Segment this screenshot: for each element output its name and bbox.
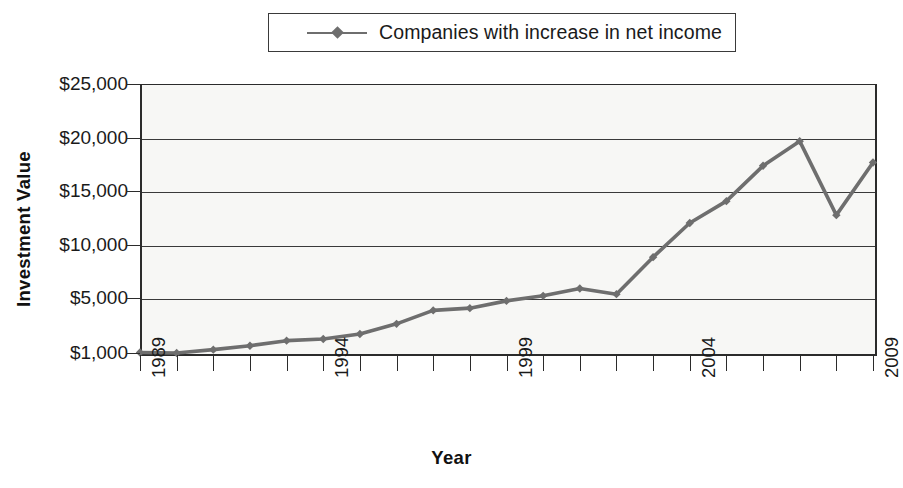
x-tick-mark-2007 bbox=[800, 355, 801, 371]
y-tick-mark-5000 bbox=[126, 298, 140, 299]
x-tick-label-1994: 1994 bbox=[331, 337, 353, 378]
data-point-1993 bbox=[282, 336, 290, 344]
data-point-1998 bbox=[466, 304, 474, 312]
x-tick-mark-1991 bbox=[213, 355, 214, 371]
x-tick-mark-1997 bbox=[433, 355, 434, 371]
x-axis-title: Year bbox=[0, 447, 903, 469]
y-tick-label-25000: $25,000 bbox=[8, 73, 128, 95]
x-tick-label-2004: 2004 bbox=[698, 337, 720, 378]
chart-legend: Companies with increase in net income bbox=[268, 13, 736, 52]
x-tick-label-1999: 1999 bbox=[515, 337, 537, 378]
x-tick-mark-2009 bbox=[873, 355, 874, 371]
y-tick-mark-10000 bbox=[126, 245, 140, 246]
x-tick-label-1989: 1989 bbox=[148, 337, 170, 378]
y-tick-mark-20000 bbox=[126, 138, 140, 139]
data-point-1994 bbox=[319, 335, 327, 343]
x-tick-mark-1998 bbox=[470, 355, 471, 371]
data-series-layer bbox=[140, 84, 873, 353]
x-tick-mark-1994 bbox=[323, 355, 324, 371]
data-point-2001 bbox=[576, 284, 584, 292]
legend-label-series-1: Companies with increase in net income bbox=[379, 21, 722, 44]
data-point-2000 bbox=[539, 292, 547, 300]
chart-figure: Companies with increase in net income $2… bbox=[0, 0, 903, 488]
y-tick-mark-1000 bbox=[126, 353, 140, 354]
x-tick-mark-2005 bbox=[726, 355, 727, 371]
data-point-1999 bbox=[502, 297, 510, 305]
data-point-1995 bbox=[356, 330, 364, 338]
data-point-1991 bbox=[209, 345, 217, 353]
x-tick-mark-2002 bbox=[616, 355, 617, 371]
series-markers bbox=[136, 137, 877, 357]
x-tick-mark-2008 bbox=[836, 355, 837, 371]
series-line-companies-with-increase-in-net-income bbox=[140, 141, 873, 353]
x-tick-mark-2004 bbox=[690, 355, 691, 371]
x-tick-mark-2001 bbox=[580, 355, 581, 371]
x-tick-mark-1995 bbox=[360, 355, 361, 371]
y-tick-mark-25000 bbox=[126, 84, 140, 85]
data-point-1992 bbox=[246, 342, 254, 350]
legend-line-sample bbox=[307, 26, 367, 40]
x-tick-mark-2006 bbox=[763, 355, 764, 371]
x-tick-mark-2003 bbox=[653, 355, 654, 371]
x-tick-mark-1990 bbox=[177, 355, 178, 371]
x-tick-mark-1999 bbox=[507, 355, 508, 371]
x-tick-mark-1996 bbox=[397, 355, 398, 371]
y-tick-mark-15000 bbox=[126, 191, 140, 192]
x-tick-mark-1992 bbox=[250, 355, 251, 371]
x-tick-label-2009: 2009 bbox=[881, 337, 903, 378]
y-axis-title: Investment Value bbox=[13, 109, 35, 349]
x-tick-mark-1993 bbox=[287, 355, 288, 371]
x-tick-mark-1989 bbox=[140, 355, 141, 371]
legend-diamond-marker-icon bbox=[331, 26, 344, 39]
x-tick-mark-2000 bbox=[543, 355, 544, 371]
